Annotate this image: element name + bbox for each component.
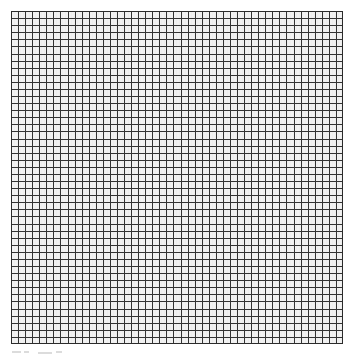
grid-lines-svg <box>11 11 343 344</box>
square-mesh-grid <box>11 11 343 344</box>
artifact-mark <box>56 351 62 353</box>
artifact-mark <box>12 351 21 353</box>
artifact-mark <box>24 351 29 353</box>
artifact-mark <box>38 352 52 354</box>
screenshot-canvas <box>0 0 356 358</box>
